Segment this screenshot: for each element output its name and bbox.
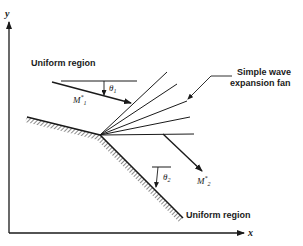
expansion-fan-diagram: y x Uniform region Uniform region Simple…	[0, 0, 303, 246]
fan-label-line2: expansion fan	[230, 79, 291, 88]
mach-upstream-label: M*1	[73, 94, 87, 106]
downstream-region-label: Uniform region	[186, 211, 251, 220]
upstream-flow	[52, 81, 137, 103]
fan-label-leader	[188, 76, 232, 99]
downstream-velocity-arrow	[163, 134, 202, 171]
theta1-label: θ1	[109, 84, 116, 94]
theta2-arrow	[156, 167, 158, 187]
upstream-region-label: Uniform region	[31, 59, 96, 68]
y-axis-label: y	[5, 9, 9, 19]
mach-downstream-label: M*2	[197, 175, 211, 187]
downstream-flow	[152, 134, 202, 187]
x-axis-label: x	[248, 228, 253, 238]
theta2-label: θ2	[163, 173, 170, 183]
leader-line	[188, 76, 232, 99]
axes	[9, 22, 244, 233]
fan-line-5	[100, 134, 194, 135]
upstream-velocity-arrow	[52, 82, 131, 103]
fan-label-line1: Simple wave	[237, 68, 291, 77]
diagram-canvas	[0, 0, 303, 246]
upstream-wall-hatching	[25, 117, 100, 140]
